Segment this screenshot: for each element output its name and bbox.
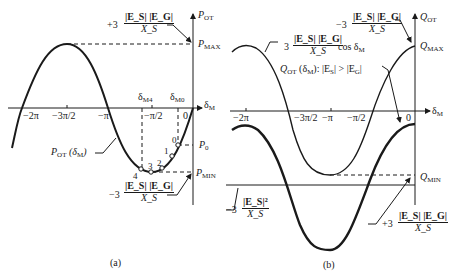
- diagram-canvas: [0, 0, 452, 272]
- qot-curve-label: QOT (δM): |ES| > |EG|: [280, 64, 362, 76]
- a-tick-neg-pi2: −π/2: [144, 111, 162, 121]
- caption-b: (b): [323, 260, 335, 270]
- a-tick-neg-2pi: −2π: [23, 111, 39, 121]
- pot-curve-label: POT (δM): [51, 147, 87, 159]
- b-tick-neg-3pi2: −3π/2: [294, 113, 317, 123]
- b-cos-coef: 3: [284, 42, 289, 52]
- b-qot-curve: [232, 124, 415, 250]
- b-top-fraction: |E_S| |E_G| X_S: [352, 12, 402, 34]
- a-x-axis-label: δM: [204, 100, 215, 112]
- b-tick-neg-pi: −π: [322, 113, 333, 123]
- a-bottom-fraction: |E_S| |E_G| X_S: [124, 181, 174, 203]
- point-1-label: 1: [164, 147, 169, 156]
- point-2-label: 2: [157, 159, 162, 168]
- b-tick-neg-2pi: −2π: [233, 113, 249, 123]
- point-4: [139, 167, 143, 171]
- b-x-axis-label: δM: [432, 106, 443, 118]
- a-tick-neg-pi: −π: [98, 111, 109, 121]
- a-tick-zero: 0: [183, 111, 188, 121]
- a-y-axis-label: POT: [198, 10, 213, 22]
- qmin-label: QMIN: [420, 172, 441, 184]
- b-cos-suffix: cos δM: [338, 42, 365, 54]
- b-top-coef: −3: [336, 20, 347, 30]
- b-left-fraction: |E_S|² X_S: [242, 197, 269, 219]
- b-left-coef: −3: [226, 205, 237, 215]
- a-bottom-coef: −3: [109, 190, 120, 200]
- qmax-label: QMAX: [420, 41, 444, 53]
- pmin-label: PMIN: [196, 168, 216, 180]
- b-tick-neg-pi2: −π/2: [347, 113, 365, 123]
- a-top-fraction: |E_S| |E_G| X_S: [124, 12, 174, 34]
- point-1: [170, 154, 174, 158]
- pmax-label: PMAX: [198, 39, 220, 51]
- b-bottom-fraction: |E_S| |E_G| X_S: [398, 211, 448, 233]
- caption-a: (a): [110, 258, 121, 268]
- point-0-label: 0: [172, 136, 177, 145]
- b-bottom-coef: +3: [382, 219, 393, 229]
- p0-label: P0: [199, 140, 209, 152]
- delta-m0-label: δM0: [170, 92, 184, 104]
- a-tick-neg-3pi2: −3π/2: [52, 111, 75, 121]
- a-top-coef: +3: [107, 20, 118, 30]
- b-tick-zero: 0: [406, 113, 411, 123]
- point-3-label: 3: [148, 162, 153, 171]
- delta-m4-label: δM4: [138, 92, 152, 104]
- b-cos-fraction: |E_S| |E_G| X_S: [293, 34, 343, 56]
- b-y-axis-label: QOT: [420, 12, 437, 24]
